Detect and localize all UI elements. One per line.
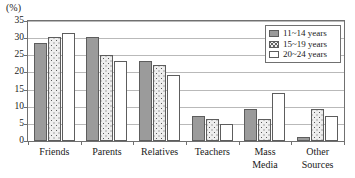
legend-label-series-2: 15~19 years	[283, 40, 327, 49]
bar	[297, 137, 310, 141]
x-tick-mark	[28, 142, 29, 145]
legend: 11~14 years 15~19 years 20~24 years	[265, 25, 341, 63]
y-tick-label-25: 25	[0, 50, 24, 60]
bar	[100, 55, 113, 141]
y-tick-label-20: 20	[0, 67, 24, 77]
legend-swatch-icon-series-2	[269, 41, 279, 48]
bar	[153, 65, 166, 141]
bar	[325, 116, 338, 141]
y-tick-label-15: 15	[0, 85, 24, 95]
bar-chart: (%) 05101520253035 FriendsParentsRelativ…	[0, 0, 355, 178]
x-axis-label-friends: Friends	[28, 146, 81, 159]
bar	[167, 75, 180, 141]
bar-group	[28, 21, 81, 141]
bar	[220, 124, 233, 141]
x-tick-mark	[186, 142, 187, 145]
x-tick-mark	[344, 142, 345, 145]
x-axis-label-parents: Parents	[81, 146, 134, 159]
legend-item-11-14: 11~14 years	[269, 29, 337, 39]
x-tick-mark	[81, 142, 82, 145]
bar-group	[133, 21, 186, 141]
legend-item-20-24: 20~24 years	[269, 50, 337, 60]
bar	[48, 37, 61, 141]
y-tick-label-10: 10	[0, 102, 24, 112]
x-tick-mark	[239, 142, 240, 145]
bar	[244, 109, 257, 141]
x-axis-label-other-sources: Other Sources	[291, 146, 344, 171]
bar	[139, 61, 152, 141]
x-axis-label-relatives: Relatives	[133, 146, 186, 159]
bar	[206, 119, 219, 141]
bar	[86, 37, 99, 141]
y-tick-label-30: 30	[0, 33, 24, 43]
bar-group	[186, 21, 239, 141]
x-axis-label-mass-media: Mass Media	[239, 146, 292, 171]
legend-label-series-3: 20~24 years	[283, 50, 327, 59]
y-axis-unit-label: (%)	[6, 2, 21, 13]
x-axis-label-teachers: Teachers	[186, 146, 239, 159]
x-tick-mark	[133, 142, 134, 145]
bar	[62, 33, 75, 141]
legend-swatch-icon-series-3	[269, 51, 279, 58]
y-tick-label-5: 5	[0, 119, 24, 129]
bar	[34, 43, 47, 141]
bar	[192, 116, 205, 141]
x-tick-mark	[291, 142, 292, 145]
bar	[272, 93, 285, 141]
y-tick-label-0: 0	[0, 136, 24, 146]
y-tick-label-35: 35	[0, 16, 24, 26]
legend-swatch-icon-series-1	[269, 30, 279, 37]
bar	[258, 119, 271, 141]
legend-label-series-1: 11~14 years	[283, 29, 327, 38]
legend-item-15-19: 15~19 years	[269, 39, 337, 49]
bar	[114, 61, 127, 141]
bar-group	[81, 21, 134, 141]
bar	[311, 109, 324, 141]
